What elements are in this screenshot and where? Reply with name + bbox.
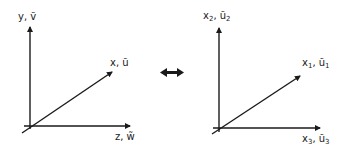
diagram-canvas bbox=[0, 0, 345, 153]
right-diagonal-axis-label: x1, ũ1 bbox=[302, 58, 330, 70]
right-coordinate-frame bbox=[212, 28, 320, 134]
left-vertical-axis-label: y, ṽ bbox=[18, 12, 36, 22]
right-horizontal-axis-label: x3, ũ3 bbox=[302, 134, 330, 146]
right-vertical-axis-label: x2, ũ2 bbox=[203, 11, 231, 23]
left-diagonal-axis bbox=[22, 72, 112, 133]
left-coordinate-frame bbox=[22, 27, 130, 133]
left-diagonal-axis-label: x, ũ bbox=[110, 58, 129, 68]
double-arrow-icon bbox=[160, 68, 184, 77]
right-diagonal-axis bbox=[212, 76, 300, 134]
left-horizontal-axis-label: z, w̃ bbox=[115, 132, 135, 142]
